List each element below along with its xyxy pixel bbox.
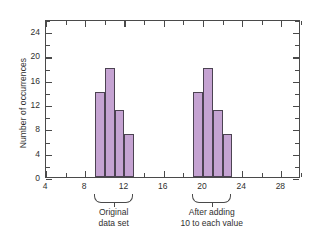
histogram-bar xyxy=(203,68,213,177)
y-tick-left xyxy=(46,94,50,95)
x-tick-bottom xyxy=(301,173,302,177)
y-tick-left xyxy=(46,143,50,144)
x-tick-bottom xyxy=(66,173,67,177)
x-tick-top xyxy=(105,21,106,25)
histogram-figure: Number of occurrences 048121620244812162… xyxy=(0,0,310,245)
histogram-bar xyxy=(115,110,125,177)
x-tick-label: 8 xyxy=(64,181,104,191)
y-tick-right xyxy=(295,118,299,119)
y-tick-left xyxy=(46,130,52,131)
x-tick-bottom xyxy=(281,171,282,177)
y-tick-left xyxy=(46,57,52,58)
x-tick-bottom xyxy=(164,171,165,177)
y-tick-right xyxy=(295,70,299,71)
x-tick-top xyxy=(85,21,86,27)
y-tick-right xyxy=(293,179,299,180)
x-tick-bottom xyxy=(183,173,184,177)
y-tick-label: 12 xyxy=(0,100,40,110)
x-tick-label: 16 xyxy=(143,181,183,191)
y-tick-right xyxy=(295,21,299,22)
x-tick-bottom xyxy=(85,171,86,177)
y-tick-left xyxy=(46,167,50,168)
x-tick-label: 12 xyxy=(103,181,143,191)
histogram-bar xyxy=(213,110,223,177)
plot-area xyxy=(45,20,300,178)
y-tick-label: 16 xyxy=(0,76,40,86)
y-tick-right xyxy=(293,106,299,107)
y-tick-right xyxy=(293,57,299,58)
y-tick-right xyxy=(295,94,299,95)
y-tick-left xyxy=(46,33,52,34)
y-tick-left xyxy=(46,118,50,119)
histogram-bar xyxy=(223,134,233,177)
x-tick-top xyxy=(164,21,165,27)
y-tick-right xyxy=(293,82,299,83)
group-caption-line-1: After adding xyxy=(142,207,282,218)
x-tick-top xyxy=(144,21,145,25)
x-tick-top xyxy=(183,21,184,25)
histogram-bar xyxy=(105,68,115,177)
x-tick-top xyxy=(242,21,243,27)
y-tick-label: 4 xyxy=(0,149,40,159)
y-tick-right xyxy=(295,45,299,46)
x-tick-bottom xyxy=(242,171,243,177)
histogram-bar xyxy=(95,92,105,177)
histogram-bar xyxy=(124,134,134,177)
x-tick-bottom xyxy=(262,173,263,177)
x-tick-label: 24 xyxy=(221,181,261,191)
x-tick-label: 4 xyxy=(25,181,65,191)
x-tick-bottom xyxy=(46,171,47,177)
y-tick-left xyxy=(46,82,52,83)
x-tick-top xyxy=(66,21,67,25)
x-tick-top xyxy=(281,21,282,27)
x-tick-bottom xyxy=(144,173,145,177)
x-tick-top xyxy=(223,21,224,25)
y-tick-left xyxy=(46,70,50,71)
y-tick-right xyxy=(295,167,299,168)
y-tick-label: 20 xyxy=(0,51,40,61)
x-tick-top xyxy=(124,21,125,27)
x-tick-top xyxy=(262,21,263,25)
histogram-bar xyxy=(193,92,203,177)
group-caption: After adding10 to each value xyxy=(142,207,282,228)
y-tick-right xyxy=(295,143,299,144)
group-caption-line-2: 10 to each value xyxy=(142,218,282,229)
y-tick-label: 24 xyxy=(0,27,40,37)
y-tick-left xyxy=(46,155,52,156)
y-tick-left xyxy=(46,21,50,22)
cut-off-caption xyxy=(0,236,310,243)
y-tick-right xyxy=(293,155,299,156)
y-tick-right xyxy=(293,130,299,131)
y-tick-left xyxy=(46,179,52,180)
x-tick-top xyxy=(203,21,204,27)
y-tick-left xyxy=(46,45,50,46)
x-tick-label: 20 xyxy=(182,181,222,191)
x-tick-top xyxy=(301,21,302,25)
y-tick-label: 8 xyxy=(0,124,40,134)
x-tick-label: 28 xyxy=(260,181,300,191)
y-tick-right xyxy=(293,33,299,34)
y-tick-left xyxy=(46,106,52,107)
